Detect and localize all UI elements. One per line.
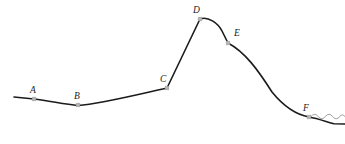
canvas-background (0, 0, 345, 144)
point-marker-c[interactable] (165, 86, 169, 90)
curve-diagram: ABCDEF (0, 0, 345, 144)
point-marker-a[interactable] (32, 97, 36, 101)
point-label-b: B (74, 91, 80, 101)
point-label-c: C (160, 74, 167, 84)
point-marker-d[interactable] (198, 17, 202, 21)
point-marker-f[interactable] (307, 115, 311, 119)
point-marker-e[interactable] (226, 41, 230, 45)
point-label-d: D (192, 5, 200, 15)
point-label-a: A (29, 85, 36, 95)
point-label-e: E (233, 28, 240, 38)
diagram-canvas: ABCDEF (0, 0, 345, 144)
point-marker-b[interactable] (76, 103, 80, 107)
point-label-f: F (302, 103, 309, 113)
